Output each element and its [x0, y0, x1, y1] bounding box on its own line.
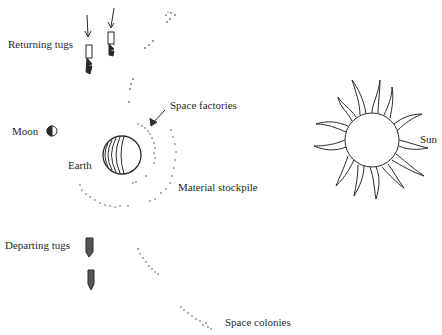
- tug-icon: [88, 270, 94, 290]
- label-space-colonies: Space colonies: [225, 316, 291, 328]
- diagram-canvas: [0, 0, 442, 335]
- arrow-down-icon: [85, 15, 91, 37]
- dotted-trail: [79, 11, 211, 329]
- label-material-stockpile: Material stockpile: [178, 181, 258, 193]
- sun-icon: [314, 80, 428, 199]
- earth-icon: [103, 136, 141, 174]
- label-moon: Moon: [12, 125, 38, 137]
- label-sun: Sun: [420, 133, 437, 145]
- moon-icon: [47, 126, 57, 136]
- label-space-factories: Space factories: [170, 99, 237, 111]
- tug-icon: [86, 45, 92, 74]
- arrow-down-icon: [108, 8, 114, 28]
- label-returning-tugs: Returning tugs: [8, 38, 73, 50]
- label-departing-tugs: Departing tugs: [5, 239, 70, 251]
- tug-icon: [108, 32, 114, 56]
- arrow-icon: [150, 110, 165, 126]
- label-earth: Earth: [68, 159, 92, 171]
- tug-icon: [86, 238, 93, 257]
